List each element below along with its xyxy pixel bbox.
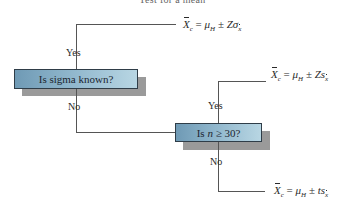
diagram-title: Test for a mean bbox=[0, 0, 345, 5]
formula-sigma-known: Xc = μH ± Zσx bbox=[183, 19, 241, 33]
no-label-2: No bbox=[210, 157, 222, 167]
connector-d1-yes-horizontal bbox=[76, 24, 176, 25]
formula-small-sample: Xc = μH ± tsx bbox=[274, 185, 328, 199]
connector-d2-no-horizontal bbox=[218, 191, 265, 192]
no-label-1: No bbox=[68, 102, 80, 112]
formula-large-sample: Xc = μH ± Zsx bbox=[271, 69, 328, 83]
decision1-question: Is sigma known? bbox=[39, 73, 114, 85]
connector-d1-no-horizontal bbox=[76, 132, 175, 133]
decision2-question: Is n ≥ 30? bbox=[197, 127, 241, 139]
decision-box-sample-size: Is n ≥ 30? bbox=[175, 123, 262, 142]
decision-box-sigma-known: Is sigma known? bbox=[14, 69, 138, 89]
yes-label-1: Yes bbox=[66, 48, 81, 58]
connector-d2-yes-horizontal bbox=[218, 81, 266, 82]
yes-label-2: Yes bbox=[208, 101, 223, 111]
